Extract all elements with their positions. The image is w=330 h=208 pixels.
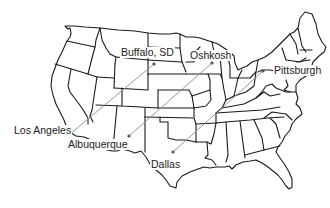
city-dot-pittsburgh[interactable] [261,69,264,72]
city-dot-buffalo[interactable] [152,62,155,65]
city-dot-oshkosh[interactable] [210,61,213,64]
city-label-pittsburgh: Pittsburgh [273,65,322,76]
city-dot-dallas[interactable] [171,150,174,153]
us-outline [51,12,326,189]
city-label-buffalo: Buffalo, SD [120,47,175,58]
city-label-dallas: Dallas [150,159,181,170]
route-los-angeles-buffalo [70,64,154,134]
city-label-oshkosh: Oshkosh [189,50,232,61]
city-label-albuquerque: Albuquerque [67,139,129,150]
state-borders [51,12,326,189]
route-dallas-pittsburgh [173,71,263,152]
city-label-los-angeles: Los Angeles [13,125,72,136]
us-map [0,0,330,208]
